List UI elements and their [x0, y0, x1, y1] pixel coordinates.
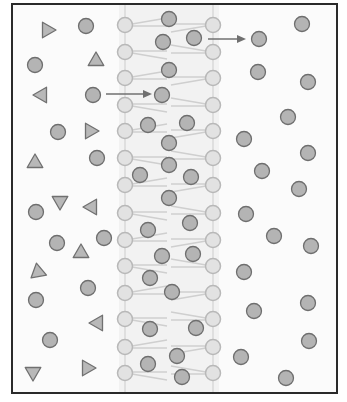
solute-particle	[155, 88, 170, 103]
lipid-head	[206, 366, 221, 381]
solute-particle	[97, 231, 112, 246]
lipid-head	[206, 71, 221, 86]
membrane-diffusion-diagram	[0, 0, 347, 402]
lipid-head	[118, 45, 133, 60]
solute-particle	[155, 249, 170, 264]
lipid-head	[118, 366, 133, 381]
lipid-head	[206, 286, 221, 301]
solute-particle	[141, 223, 156, 238]
lipid-head	[118, 151, 133, 166]
solute-particle	[162, 12, 177, 27]
solute-particle	[162, 191, 177, 206]
lipid-head	[206, 98, 221, 113]
lipid-head	[206, 312, 221, 327]
lipid-head	[118, 71, 133, 86]
lipid-head	[118, 206, 133, 221]
lipid-head	[206, 259, 221, 274]
solute-particle	[51, 125, 66, 140]
lipid-head	[206, 178, 221, 193]
lipid-head	[206, 45, 221, 60]
solute-particle	[184, 170, 199, 185]
solute-particle	[156, 35, 171, 50]
solute-particle	[234, 350, 249, 365]
solute-particle	[143, 322, 158, 337]
solute-particle	[279, 371, 294, 386]
solute-particle	[180, 116, 195, 131]
solute-particle	[162, 136, 177, 151]
lipid-head	[206, 18, 221, 33]
solute-particle	[50, 236, 65, 251]
lipid-head	[206, 124, 221, 139]
solute-particle	[133, 168, 148, 183]
solute-particle	[28, 58, 43, 73]
solute-particle	[183, 216, 198, 231]
solute-particle	[281, 110, 296, 125]
solute-particle	[237, 265, 252, 280]
solute-particle	[141, 118, 156, 133]
solute-particle	[304, 239, 319, 254]
solute-particle	[186, 247, 201, 262]
solute-particle	[86, 88, 101, 103]
solute-particle	[302, 334, 317, 349]
solute-particle	[162, 158, 177, 173]
solute-particle	[175, 370, 190, 385]
solute-particle	[255, 164, 270, 179]
solute-particle	[143, 271, 158, 286]
lipid-head	[206, 206, 221, 221]
lipid-head	[118, 18, 133, 33]
solute-particle	[170, 349, 185, 364]
lipid-head	[118, 98, 133, 113]
solute-particle	[301, 146, 316, 161]
solute-particle	[43, 333, 58, 348]
solute-particle	[29, 205, 44, 220]
solute-particle	[165, 285, 180, 300]
lipid-head	[206, 151, 221, 166]
lipid-head	[118, 124, 133, 139]
lipid-head	[118, 233, 133, 248]
solute-particle	[239, 207, 254, 222]
solute-particle	[189, 321, 204, 336]
lipid-head	[206, 340, 221, 355]
solute-particle	[247, 304, 262, 319]
solute-particle	[81, 281, 96, 296]
lipid-head	[118, 259, 133, 274]
solute-particle	[187, 31, 202, 46]
solute-particle	[252, 32, 267, 47]
solute-particle	[141, 357, 156, 372]
solute-particle	[295, 17, 310, 32]
solute-particle	[79, 19, 94, 34]
solute-particle	[301, 296, 316, 311]
lipid-head	[118, 178, 133, 193]
lipid-head	[206, 233, 221, 248]
solute-particle	[237, 132, 252, 147]
solute-particle	[267, 229, 282, 244]
lipid-head	[118, 312, 133, 327]
lipid-head	[118, 286, 133, 301]
solute-particle	[301, 75, 316, 90]
solute-particle	[90, 151, 105, 166]
solute-particle	[292, 182, 307, 197]
lipid-head	[118, 340, 133, 355]
solute-particle	[162, 63, 177, 78]
solute-particle	[251, 65, 266, 80]
solute-particle	[29, 293, 44, 308]
